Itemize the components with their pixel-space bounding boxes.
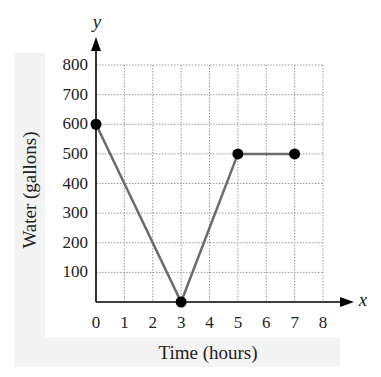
y-tick-label: 800 xyxy=(63,55,89,75)
grid-lines xyxy=(96,65,323,302)
x-axis-arrow-icon xyxy=(340,297,354,307)
data-point xyxy=(176,297,187,308)
x-tick-label: 6 xyxy=(262,313,271,333)
data-point xyxy=(232,148,243,159)
x-axis-letter: x xyxy=(359,289,367,311)
axes xyxy=(91,37,354,307)
data-point xyxy=(91,119,102,130)
y-tick-label: 300 xyxy=(63,203,89,223)
x-tick-label: 0 xyxy=(92,313,101,333)
x-tick-label: 7 xyxy=(290,313,299,333)
x-axis-label: Time (hours) xyxy=(158,342,257,364)
y-tick-label: 600 xyxy=(63,114,89,134)
data-point xyxy=(289,148,300,159)
x-tick-label: 1 xyxy=(120,313,129,333)
x-tick-label: 4 xyxy=(205,313,214,333)
x-tick-label: 8 xyxy=(319,313,328,333)
y-tick-label: 200 xyxy=(63,233,89,253)
y-tick-label: 400 xyxy=(63,174,89,194)
y-axis-arrow-icon xyxy=(91,37,101,51)
y-axis-label: Water (gallons) xyxy=(19,131,41,248)
x-tick-label: 3 xyxy=(177,313,186,333)
x-tick-label: 2 xyxy=(149,313,158,333)
y-axis-letter: y xyxy=(93,11,101,33)
x-tick-label: 5 xyxy=(234,313,243,333)
y-tick-label: 700 xyxy=(63,85,89,105)
y-tick-label: 500 xyxy=(63,144,89,164)
y-tick-label: 100 xyxy=(63,262,89,282)
